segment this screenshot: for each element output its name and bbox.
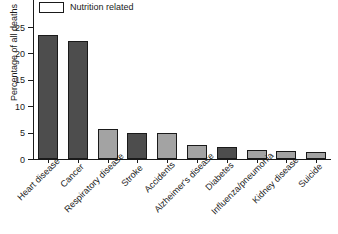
bar-suicide [306,152,326,159]
bars-layer [33,0,331,159]
x-label-stroke: Stroke [120,163,145,188]
bar-diabetes [217,147,237,159]
y-axis-title: Percentage of all deaths [10,0,19,118]
chart-figure: Nutrition related 0510152025 Percentage … [0,0,338,234]
bar-cancer [68,41,88,159]
y-tick-label: 5 [20,129,25,138]
y-tick-label: 0 [20,155,25,164]
bar-accidents [157,133,177,159]
bar-heart-disease [38,35,58,159]
y-tick-mark [28,159,33,160]
plot-area: Nutrition related 0510152025 Percentage … [0,0,338,234]
x-label-suicide: Suicide [297,162,324,189]
x-label-respiratory-disease: Respiratory disease [63,152,126,215]
y-tick-0: 0 [28,159,33,160]
x-label-cancer: Cancer [59,162,86,189]
bar-stroke [127,133,147,159]
